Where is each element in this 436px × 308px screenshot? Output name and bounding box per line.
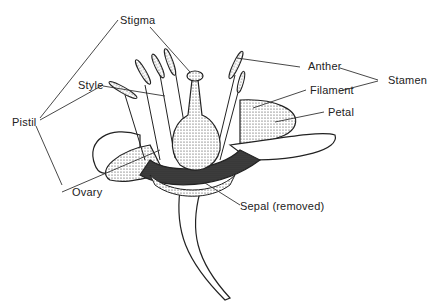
stem [179,190,230,300]
label-sepal: Sepal (removed) [240,200,324,212]
label-stigma: Stigma [120,14,155,26]
flower-illustration [0,0,436,308]
label-stamen: Stamen [388,74,427,86]
label-ovary: Ovary [72,186,102,198]
label-anther: Anther [308,60,342,72]
label-filament: Filament [310,84,354,96]
label-pistil: Pistil [12,116,36,128]
label-style: Style [78,79,103,91]
pistil [172,71,220,170]
label-petal: Petal [328,106,354,118]
